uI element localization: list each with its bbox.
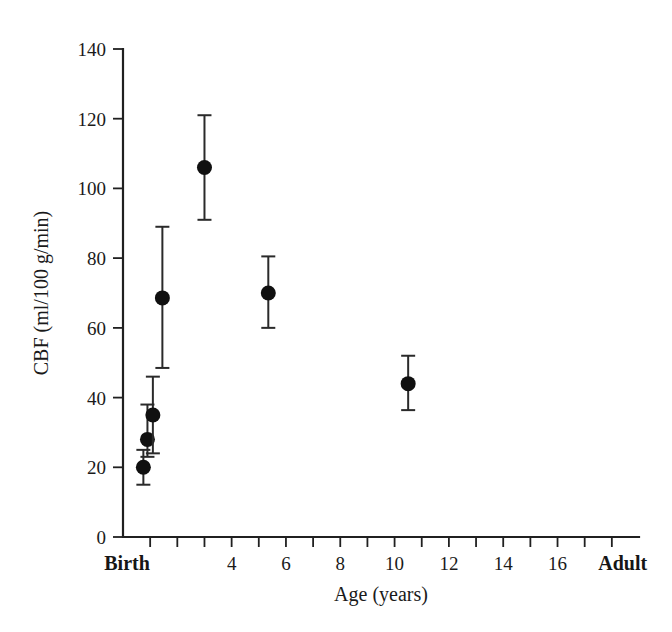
x-tick-label-16: 16 xyxy=(548,553,567,574)
x-tick-label-4: 4 xyxy=(227,553,237,574)
x-tick-label-10: 10 xyxy=(385,553,404,574)
data-point-group-4 xyxy=(197,115,212,220)
y-axis-tick-labels: 0 20 40 60 80 100 120 140 xyxy=(78,39,107,548)
y-axis-title: CBF (ml/100 g/min) xyxy=(30,211,53,375)
data-point-marker-4 xyxy=(197,160,212,175)
data-point-group-3 xyxy=(155,227,170,368)
y-tick-label-60: 60 xyxy=(87,318,106,339)
data-point-group-5 xyxy=(261,256,276,327)
figure-container: 0 20 40 60 80 100 120 140 46810121416 Bi… xyxy=(0,0,672,632)
y-tick-label-20: 20 xyxy=(87,457,106,478)
cbf-vs-age-scatter-plot: 0 20 40 60 80 100 120 140 46810121416 Bi… xyxy=(0,0,672,632)
data-point-marker-6 xyxy=(401,376,416,391)
y-tick-label-100: 100 xyxy=(78,178,107,199)
y-axis-ticks xyxy=(113,49,123,537)
x-tick-label-8: 8 xyxy=(336,553,346,574)
data-point-group-6 xyxy=(401,356,416,410)
x-axis-ticks xyxy=(150,537,612,547)
x-tick-label-6: 6 xyxy=(281,553,291,574)
x-tick-label-14: 14 xyxy=(494,553,514,574)
y-tick-label-40: 40 xyxy=(87,388,106,409)
y-tick-label-120: 120 xyxy=(78,109,107,130)
x-axis-title: Age (years) xyxy=(334,583,428,606)
x-category-label-birth: Birth xyxy=(104,552,150,574)
data-point-marker-2 xyxy=(145,408,160,423)
y-tick-label-80: 80 xyxy=(87,248,106,269)
x-axis-tick-labels: 46810121416 xyxy=(227,553,567,574)
x-tick-label-12: 12 xyxy=(439,553,458,574)
data-point-group-0 xyxy=(136,450,151,485)
y-tick-label-0: 0 xyxy=(97,527,107,548)
data-point-marker-3 xyxy=(155,290,170,305)
y-tick-label-140: 140 xyxy=(78,39,107,60)
x-category-label-adult: Adult xyxy=(598,552,647,574)
data-point-layer xyxy=(136,115,416,484)
data-point-marker-0 xyxy=(136,460,151,475)
data-point-marker-5 xyxy=(261,286,276,301)
